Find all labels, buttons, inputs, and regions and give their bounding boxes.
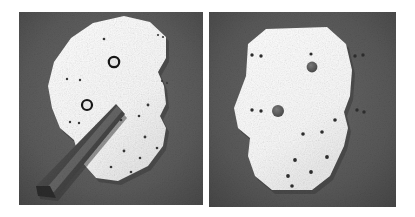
punch-mark — [309, 170, 313, 174]
punch-mark — [259, 54, 262, 57]
punch-mark — [69, 121, 71, 123]
punch-mark — [290, 184, 294, 188]
punch-mark — [139, 157, 142, 160]
punch-mark — [333, 118, 337, 122]
punch-mark — [301, 132, 305, 136]
punch-mark — [166, 82, 168, 84]
punch-mark — [293, 158, 297, 162]
punch-mark — [156, 147, 159, 150]
figure-root — [0, 0, 415, 217]
large-hole-upper — [307, 62, 318, 73]
punch-mark — [161, 80, 163, 82]
left-panel-canvas — [19, 12, 203, 205]
punch-mark — [66, 78, 68, 80]
punch-mark — [309, 52, 312, 55]
punch-mark — [147, 104, 150, 107]
punch-mark — [162, 36, 164, 38]
punch-mark — [355, 108, 358, 111]
punch-mark — [362, 110, 365, 113]
punch-mark — [110, 166, 113, 169]
left-photo-panel — [19, 12, 203, 205]
punch-mark — [361, 53, 364, 56]
punch-mark — [157, 34, 159, 36]
punch-mark — [130, 171, 133, 174]
punch-mark — [79, 79, 81, 81]
punch-mark — [138, 115, 141, 118]
large-hole-lower — [272, 105, 284, 117]
punch-mark — [286, 174, 290, 178]
punch-mark — [144, 136, 147, 139]
right-panel-canvas — [209, 12, 396, 207]
punch-mark — [353, 54, 356, 57]
ring-mark-upper — [109, 57, 119, 67]
punch-mark — [259, 109, 262, 112]
right-photo-panel — [209, 12, 396, 207]
punch-mark — [250, 53, 253, 56]
punch-mark — [325, 155, 329, 159]
punch-mark — [103, 38, 106, 41]
punch-mark — [78, 122, 80, 124]
ring-mark-lower — [82, 100, 92, 110]
punch-mark — [320, 130, 324, 134]
punch-mark — [250, 108, 253, 111]
punch-mark — [123, 150, 126, 153]
